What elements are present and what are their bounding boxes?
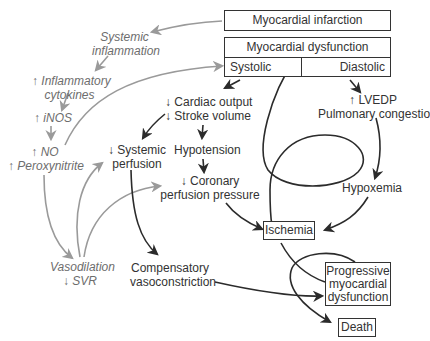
arrow-coronary-to-ischemia — [226, 203, 262, 229]
hypotension-label: Hypotension — [174, 143, 234, 157]
arrow-peroxynitrite-to-vasodilation — [44, 175, 72, 258]
arrow-systolic-to-cardiac-output — [225, 80, 240, 88]
arrow-hypoxemia-to-ischemia — [325, 197, 368, 230]
myocardial-dysfunction-label: Myocardial dysfunction — [225, 38, 390, 58]
systolic-label: Systolic — [225, 58, 302, 77]
myocardial-infarction-label: Myocardial infarction — [252, 13, 362, 27]
up-arrow-icon: ↑ — [31, 145, 37, 159]
arrow-diastolic-to-lvedp — [350, 80, 360, 92]
no-peroxynitrite-label: ↑ NO ↑ Peroxynitrite — [8, 145, 82, 173]
box-myocardial-infarction: Myocardial infarction — [224, 10, 391, 31]
loop-ischemia-to-progressive — [281, 243, 325, 282]
systemic-perfusion-label: ↓ Systemic perfusion — [106, 143, 168, 171]
arrow-hypotension-to-coronary — [203, 159, 204, 172]
box-ischemia: Ischemia — [263, 221, 315, 240]
diastolic-label: Diastolic — [302, 58, 390, 77]
down-arrow-icon: ↓ — [63, 274, 69, 288]
up-arrow-icon: ↑ — [34, 111, 40, 125]
cardiac-output-label: ↓ Cardiac output ↓ Stroke volume — [165, 95, 252, 123]
vasodilation-svr-label: Vasodilation ↓ SVR — [50, 260, 110, 288]
systemic-inflammation-label: Systemic inflammation — [92, 30, 157, 58]
compensatory-vasoconstriction-label: Compensatory vasoconstriction — [130, 261, 210, 289]
arrow-mi-to-inflammation — [152, 21, 222, 32]
cytokines-label: ↑ Inflammatory cytokines — [32, 74, 107, 102]
coronary-perfusion-label: ↓ Coronary perfusion pressure — [160, 174, 260, 202]
box-progressive-dysfunction: Progressive myocardial dysfunction — [325, 262, 391, 306]
arrow-pulmonary-to-hypoxemia — [375, 118, 380, 178]
hypoxemia-label: Hypoxemia — [342, 181, 402, 195]
down-arrow-icon: ↓ — [165, 109, 171, 123]
arrow-stroke-volume-to-hypotension — [202, 125, 203, 138]
arrow-stroke-volume-to-systemic-perfusion — [143, 114, 165, 138]
down-arrow-icon: ↓ — [165, 95, 171, 109]
arrow-inflammation-to-cytokines — [96, 56, 108, 70]
arrow-compensatory-to-progressive — [215, 282, 322, 296]
lvedp-pulmonary-label: ↑ LVEDP Pulmonary congestion — [318, 93, 428, 121]
up-arrow-icon: ↑ — [8, 159, 14, 173]
ischemia-label: Ischemia — [265, 223, 313, 237]
box-death: Death — [338, 318, 376, 337]
box-myocardial-dysfunction: Myocardial dysfunction Systolic Diastoli… — [224, 37, 391, 77]
down-arrow-icon: ↓ — [181, 174, 187, 188]
arrow-vasodilation-to-systemic-perfusion — [77, 163, 102, 257]
down-arrow-icon: ↓ — [108, 143, 114, 157]
up-arrow-icon: ↑ — [32, 74, 38, 88]
death-label: Death — [341, 320, 373, 334]
up-arrow-icon: ↑ — [349, 93, 355, 107]
loop-dysfunction-to-ischemia — [263, 57, 363, 226]
arrow-systemic-perfusion-to-compensatory — [131, 170, 157, 254]
inos-label: ↑ iNOS — [33, 111, 73, 125]
progressive-line3: dysfunction — [326, 291, 390, 304]
